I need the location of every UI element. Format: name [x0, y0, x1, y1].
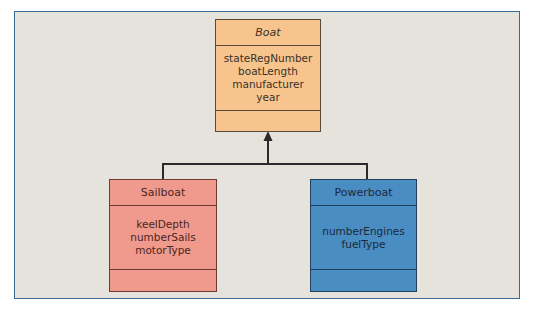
class-sailboat-operations	[110, 270, 216, 291]
attribute: fuelType	[342, 238, 386, 251]
class-powerboat: Powerboat numberEngines fuelType	[310, 179, 417, 292]
class-powerboat-name: Powerboat	[311, 180, 416, 206]
attribute: stateRegNumber	[224, 52, 313, 65]
class-sailboat-name: Sailboat	[110, 180, 216, 206]
class-boat-name: Boat	[216, 20, 320, 46]
class-powerboat-attributes: numberEngines fuelType	[311, 206, 416, 270]
class-boat: Boat stateRegNumber boatLength manufactu…	[215, 19, 321, 132]
attribute: boatLength	[238, 65, 298, 78]
attribute: keelDepth	[136, 218, 190, 231]
inheritance-arrowhead-icon	[263, 131, 273, 142]
inheritance-horizontal-line	[162, 163, 368, 165]
powerboat-connector-line	[366, 163, 368, 180]
inheritance-trunk-line	[267, 140, 269, 164]
attribute: motorType	[135, 244, 191, 257]
attribute: numberEngines	[322, 225, 404, 238]
attribute: manufacturer	[232, 78, 304, 91]
class-boat-operations	[216, 111, 320, 131]
class-sailboat-attributes: keelDepth numberSails motorType	[110, 206, 216, 270]
attribute: numberSails	[130, 231, 195, 244]
sailboat-connector-line	[162, 163, 164, 180]
attribute: year	[256, 91, 279, 104]
class-sailboat: Sailboat keelDepth numberSails motorType	[109, 179, 217, 292]
class-boat-attributes: stateRegNumber boatLength manufacturer y…	[216, 46, 320, 111]
class-powerboat-operations	[311, 270, 416, 291]
